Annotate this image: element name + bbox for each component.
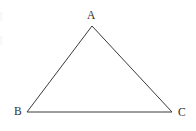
figure-canvas: A B C | |	[0, 0, 196, 131]
vertex-label-a: A	[87, 10, 95, 22]
vertex-label-c: C	[178, 107, 186, 119]
vertex-label-b: B	[14, 106, 22, 118]
triangle-outline	[27, 26, 172, 112]
triangle-diagram	[0, 0, 196, 131]
left-edge-artifact-bottom: |	[0, 34, 6, 45]
left-edge-artifact-top: |	[0, 10, 6, 21]
